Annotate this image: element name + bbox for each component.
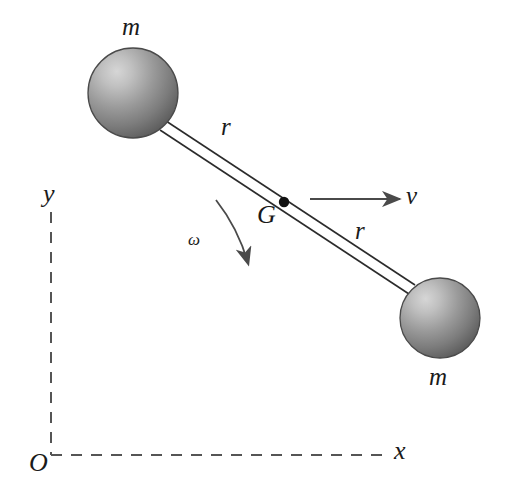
label-axis-y: y xyxy=(43,181,55,207)
label-centre-of-mass: G xyxy=(257,202,276,228)
label-velocity: v xyxy=(406,183,417,208)
label-origin: O xyxy=(29,450,48,476)
diagram-vector-layer xyxy=(0,0,505,500)
label-axis-x: x xyxy=(394,438,406,464)
label-angular-velocity: ω xyxy=(188,231,200,248)
label-mass-top: m xyxy=(122,14,140,39)
rod-edge-upper xyxy=(166,121,415,285)
mass-sphere-top xyxy=(88,48,178,138)
label-mass-bottom: m xyxy=(429,364,447,389)
connecting-rod xyxy=(160,121,415,294)
rod-edge-lower xyxy=(160,130,409,294)
physics-diagram-dumbbell: m m r r G v ω x y O xyxy=(0,0,505,500)
label-radius-upper: r xyxy=(221,114,231,139)
centre-of-mass-dot xyxy=(279,197,289,207)
coordinate-axes xyxy=(51,212,388,455)
mass-sphere-bottom xyxy=(400,278,480,358)
sphere-bottom-body xyxy=(400,278,480,358)
angular-velocity-arc-arrow xyxy=(216,200,248,263)
sphere-top-body xyxy=(88,48,178,138)
label-radius-lower: r xyxy=(355,218,365,243)
